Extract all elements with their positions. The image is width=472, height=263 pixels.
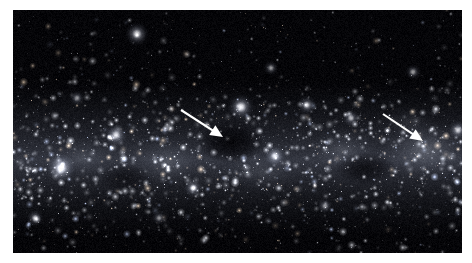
- astronomy-photo: [13, 10, 462, 253]
- star-field-canvas: [13, 10, 462, 253]
- screenshot-root: Wide-field astronomical photograph of a …: [0, 0, 472, 263]
